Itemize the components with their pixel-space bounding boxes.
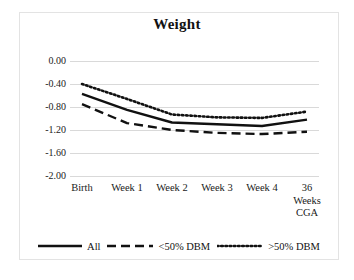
y-axis-tick-label: -1.20 bbox=[22, 125, 66, 135]
legend-swatch-solid bbox=[38, 242, 82, 250]
gridline bbox=[70, 176, 319, 177]
chart-legend: All<50% DBM>50% DBM bbox=[25, 236, 333, 256]
figure-weight-chart: Weight 0.00-0.40-0.80-1.20-1.60-2.00 Bir… bbox=[0, 0, 354, 280]
series-lines bbox=[70, 61, 319, 176]
y-axis-tick-label: 0.00 bbox=[22, 56, 66, 66]
series-line-50-dbm bbox=[82, 84, 307, 118]
legend-swatch-dotted bbox=[217, 242, 263, 250]
x-axis-tick-label: 36 Weeks CGA bbox=[278, 182, 336, 220]
legend-label: <50% DBM bbox=[158, 241, 210, 252]
legend-item[interactable]: All bbox=[38, 241, 100, 252]
series-line-50-dbm bbox=[82, 104, 307, 134]
legend-label: All bbox=[87, 241, 100, 252]
y-axis-tick-label: -1.60 bbox=[22, 148, 66, 158]
legend-label: >50% DBM bbox=[268, 241, 320, 252]
plot-wrapper: 0.00-0.40-0.80-1.20-1.60-2.00 BirthWeek … bbox=[0, 0, 354, 280]
y-axis-tick-label: -0.80 bbox=[22, 102, 66, 112]
legend-swatch-dashed bbox=[107, 242, 153, 250]
legend-item[interactable]: >50% DBM bbox=[217, 241, 320, 252]
plot-area bbox=[70, 61, 319, 176]
y-axis-tick-label: -2.00 bbox=[22, 171, 66, 181]
y-axis-tick-labels: 0.00-0.40-0.80-1.20-1.60-2.00 bbox=[22, 54, 66, 182]
legend-item[interactable]: <50% DBM bbox=[107, 241, 210, 252]
y-axis-tick-label: -0.40 bbox=[22, 79, 66, 89]
series-line-all bbox=[82, 94, 307, 126]
x-axis-tick-labels: BirthWeek 1Week 2Week 3Week 436 Weeks CG… bbox=[58, 182, 333, 240]
